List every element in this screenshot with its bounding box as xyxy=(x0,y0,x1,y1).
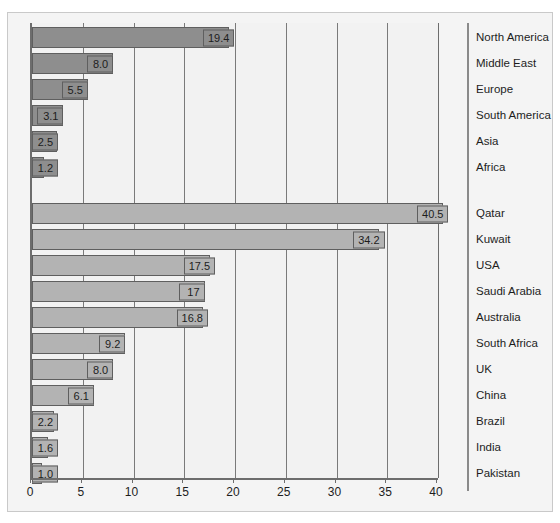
x-tick-30 xyxy=(335,478,336,483)
category-label-middle-east: Middle East xyxy=(476,53,536,74)
x-tick-label-5: 5 xyxy=(77,485,84,499)
x-tick-5 xyxy=(81,478,82,483)
bar-value-label: 8.0 xyxy=(87,361,113,378)
bar-value-label: 17 xyxy=(179,283,205,300)
bar-kuwait[interactable] xyxy=(32,229,379,250)
bars-layer: 19.48.05.53.12.51.240.534.217.51716.89.2… xyxy=(32,23,438,478)
x-tick-label-25: 25 xyxy=(277,485,290,499)
category-label-north-america: North America xyxy=(476,27,549,48)
bar-value-label: 1.6 xyxy=(32,439,58,456)
bar-row[interactable]: 2.2 xyxy=(32,411,438,432)
x-tick-10 xyxy=(132,478,133,483)
x-axis-line xyxy=(30,478,438,480)
bar-value-label: 16.8 xyxy=(177,309,208,326)
chart-frame: 19.48.05.53.12.51.240.534.217.51716.89.2… xyxy=(7,12,553,512)
bar-row[interactable]: 1.2 xyxy=(32,157,438,178)
bar-north-america[interactable] xyxy=(32,27,229,48)
bar-value-label: 2.2 xyxy=(32,413,58,430)
category-label-asia: Asia xyxy=(476,131,498,152)
bar-row[interactable]: 6.1 xyxy=(32,385,438,406)
bar-row[interactable]: 1.6 xyxy=(32,437,438,458)
x-tick-label-35: 35 xyxy=(379,485,392,499)
x-tick-20 xyxy=(233,478,234,483)
x-tick-0 xyxy=(30,478,31,483)
category-label-saudi-arabia: Saudi Arabia xyxy=(476,281,541,302)
bar-row[interactable]: 1.0 xyxy=(32,463,438,484)
category-label-column: North AmericaMiddle EastEuropeSouth Amer… xyxy=(476,23,552,478)
label-column-divider xyxy=(467,23,469,491)
bar-row[interactable]: 5.5 xyxy=(32,79,438,100)
x-tick-label-30: 30 xyxy=(328,485,341,499)
bar-row[interactable]: 17 xyxy=(32,281,438,302)
gridline-40 xyxy=(438,23,439,478)
category-label-south-america: South America xyxy=(476,105,551,126)
category-label-brazil: Brazil xyxy=(476,411,505,432)
x-tick-25 xyxy=(284,478,285,483)
x-tick-label-0: 0 xyxy=(27,485,34,499)
x-tick-label-10: 10 xyxy=(125,485,138,499)
x-tick-label-15: 15 xyxy=(176,485,189,499)
category-label-usa: USA xyxy=(476,255,500,276)
bar-row[interactable]: 16.8 xyxy=(32,307,438,328)
bar-row[interactable]: 40.5 xyxy=(32,203,438,224)
x-tick-35 xyxy=(385,478,386,483)
bar-row[interactable]: 19.4 xyxy=(32,27,438,48)
bar-row[interactable]: 3.1 xyxy=(32,105,438,126)
bar-value-label: 8.0 xyxy=(87,55,113,72)
bar-value-label: 3.1 xyxy=(37,107,63,124)
category-label-south-africa: South Africa xyxy=(476,333,538,354)
x-tick-label-20: 20 xyxy=(226,485,239,499)
bar-value-label: 5.5 xyxy=(62,81,88,98)
bar-value-label: 19.4 xyxy=(203,29,234,46)
category-label-kuwait: Kuwait xyxy=(476,229,511,250)
bar-qatar[interactable] xyxy=(32,203,443,224)
bar-value-label: 2.5 xyxy=(32,133,58,150)
category-label-uk: UK xyxy=(476,359,492,380)
plot-area: 19.48.05.53.12.51.240.534.217.51716.89.2… xyxy=(30,23,438,478)
bar-value-label: 40.5 xyxy=(417,205,448,222)
category-label-australia: Australia xyxy=(476,307,521,328)
category-label-india: India xyxy=(476,437,501,458)
bar-row[interactable]: 17.5 xyxy=(32,255,438,276)
category-label-china: China xyxy=(476,385,506,406)
bar-row[interactable]: 8.0 xyxy=(32,359,438,380)
x-tick-15 xyxy=(182,478,183,483)
bar-value-label: 34.2 xyxy=(353,231,384,248)
bar-value-label: 9.2 xyxy=(99,335,125,352)
bar-value-label: 6.1 xyxy=(68,387,94,404)
category-label-qatar: Qatar xyxy=(476,203,505,224)
bar-row[interactable]: 2.5 xyxy=(32,131,438,152)
bar-row[interactable]: 8.0 xyxy=(32,53,438,74)
bar-row[interactable]: 34.2 xyxy=(32,229,438,250)
bar-row[interactable]: 9.2 xyxy=(32,333,438,354)
x-tick-label-40: 40 xyxy=(429,485,442,499)
x-tick-40 xyxy=(436,478,437,483)
category-label-africa: Africa xyxy=(476,157,505,178)
category-label-europe: Europe xyxy=(476,79,513,100)
bar-value-label: 1.2 xyxy=(32,159,58,176)
bar-value-label: 17.5 xyxy=(184,257,215,274)
category-label-pakistan: Pakistan xyxy=(476,463,520,484)
